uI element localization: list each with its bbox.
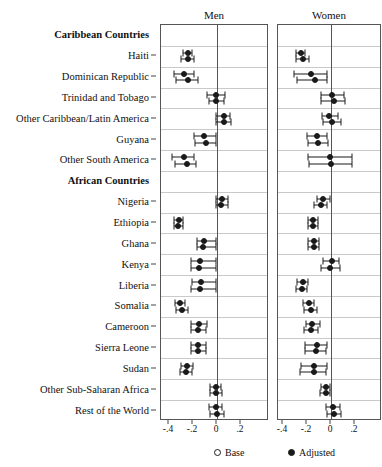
point-estimate-adjusted	[328, 161, 334, 167]
row-tick	[151, 242, 156, 243]
ci-cap	[307, 139, 308, 146]
point-estimate-adjusted	[327, 265, 333, 271]
row-label: Other Sub-Saharan Africa	[40, 383, 149, 394]
gridline	[161, 338, 267, 339]
point-estimate-adjusted	[221, 119, 227, 125]
hollow-circle-icon	[214, 449, 221, 456]
ci-cap	[329, 195, 330, 202]
ci-cap	[205, 348, 206, 355]
gridline	[161, 317, 267, 318]
ci-cap	[196, 160, 197, 167]
row-tick	[151, 367, 156, 368]
ci-cap	[172, 154, 173, 161]
point-estimate-adjusted	[218, 202, 224, 208]
group-header-label: Caribbean Countries	[54, 29, 149, 40]
row-label: Trinidad and Tobago	[62, 91, 149, 102]
point-estimate-adjusted	[331, 98, 337, 104]
ci-cap	[192, 369, 193, 376]
row-tick	[151, 159, 156, 160]
ci-cap	[191, 285, 192, 292]
ci-cap	[190, 264, 191, 271]
ci-cap	[196, 244, 197, 251]
ci-cap	[194, 139, 195, 146]
axis-tick-label: -.4	[277, 424, 287, 434]
gridline	[278, 379, 380, 380]
point-estimate-base	[300, 279, 306, 285]
point-estimate-base	[314, 342, 320, 348]
ci-cap	[208, 98, 209, 105]
gridline	[278, 171, 380, 172]
point-estimate-adjusted	[175, 223, 181, 229]
row-tick	[151, 263, 156, 264]
confidence-interval-adjusted	[191, 267, 217, 268]
row-label: Cameroon	[105, 321, 149, 332]
ci-cap	[319, 321, 320, 328]
gridline	[161, 108, 267, 109]
row-label: Haiti	[128, 50, 149, 61]
point-estimate-adjusted	[196, 265, 202, 271]
gridline	[161, 171, 267, 172]
gridline	[278, 358, 380, 359]
row-tick	[151, 222, 156, 223]
point-estimate-base	[195, 342, 201, 348]
point-estimate-adjusted	[318, 202, 324, 208]
gridline	[161, 213, 267, 214]
point-estimate-adjusted	[311, 244, 317, 250]
row-label: Ghana	[122, 237, 149, 248]
ci-cap	[215, 202, 216, 209]
ci-cap	[305, 321, 306, 328]
point-estimate-adjusted	[331, 411, 337, 417]
row-label-column: Caribbean CountriesHaitiDominican Republ…	[0, 24, 157, 420]
point-estimate-adjusted	[195, 327, 201, 333]
ci-cap	[190, 348, 191, 355]
point-estimate-adjusted	[308, 307, 314, 313]
point-estimate-adjusted	[213, 98, 219, 104]
legend-label: Adjusted	[299, 447, 335, 458]
ci-cap	[308, 160, 309, 167]
point-estimate-adjusted	[315, 140, 321, 146]
point-estimate-base	[213, 92, 219, 98]
row-label: Rest of the World	[75, 404, 149, 415]
group-header-label: African Countries	[68, 175, 149, 186]
point-estimate-base	[181, 71, 187, 77]
point-estimate-adjusted	[185, 77, 191, 83]
ci-cap	[294, 70, 295, 77]
ci-cap	[175, 77, 176, 84]
axis-tick-label: 0	[328, 424, 333, 434]
ci-cap	[230, 118, 231, 125]
gridline	[278, 150, 380, 151]
point-estimate-adjusted	[313, 348, 319, 354]
ci-cap	[304, 348, 305, 355]
point-estimate-base	[221, 113, 227, 119]
ci-cap	[210, 389, 211, 396]
point-estimate-base	[197, 258, 203, 264]
ci-cap	[338, 112, 339, 119]
point-estimate-base	[330, 404, 336, 410]
ci-cap	[198, 77, 199, 84]
point-estimate-base	[196, 321, 202, 327]
ci-cap	[307, 285, 308, 292]
plot-panel-men	[160, 24, 268, 420]
ci-cap	[307, 223, 308, 230]
point-estimate-base	[213, 384, 219, 390]
row-tick	[151, 96, 156, 97]
legend-label: Base	[225, 447, 244, 458]
row-tick	[151, 347, 156, 348]
point-estimate-adjusted	[329, 119, 335, 125]
ci-cap	[205, 327, 206, 334]
gridline	[161, 88, 267, 89]
gridline	[161, 192, 267, 193]
row-label: Ethiopia	[113, 217, 149, 228]
point-estimate-adjusted	[308, 327, 314, 333]
ci-cap	[304, 306, 305, 313]
point-estimate-adjusted	[183, 369, 189, 375]
point-estimate-base	[177, 300, 183, 306]
row-tick	[151, 284, 156, 285]
ci-cap	[314, 300, 315, 307]
gridline	[161, 254, 267, 255]
gridline	[161, 379, 267, 380]
ci-cap	[322, 118, 323, 125]
axis-tick-label: .2	[236, 424, 243, 434]
point-estimate-adjusted	[213, 390, 219, 396]
ci-cap	[209, 410, 210, 417]
